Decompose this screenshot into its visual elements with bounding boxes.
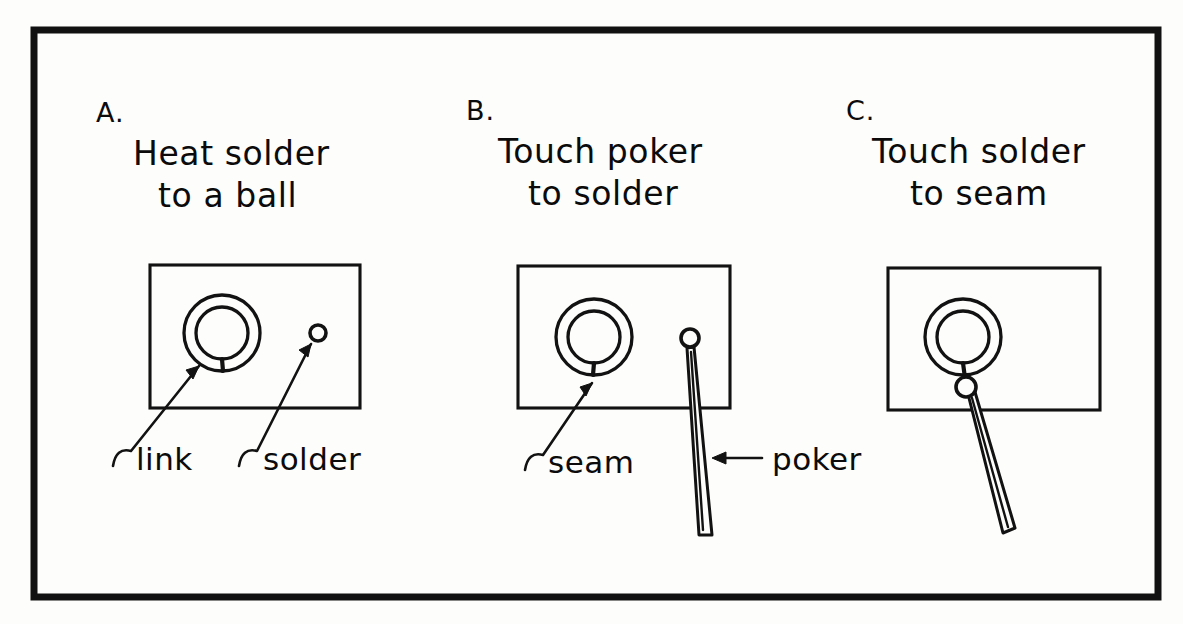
solder-arrowhead [299,344,311,357]
panel-a-callout-solder: solder [239,344,361,477]
panel-c-solder-ball [956,377,976,397]
poker-inner-line [972,398,1008,527]
panel-a-link-ring [184,295,260,371]
ring-inner-circle [196,307,248,359]
panel-c-caption-line1: Touch solder [871,132,1086,171]
poker-shaft [687,347,712,535]
solder-diagram: A. Heat solder to a ball link solder [0,0,1183,624]
ring-inner-circle [937,311,989,363]
poker-label: poker [772,441,862,477]
ring-seam [593,363,594,375]
panel-a: A. Heat solder to a ball link solder [96,97,361,477]
panel-a-caption-line2: to a ball [158,176,297,215]
seam-label: seam [548,444,634,480]
panel-a-caption-line1: Heat solder [133,134,330,173]
link-label: link [136,441,193,477]
panel-b-link-ring [556,299,632,375]
panel-b-caption-line2: to solder [528,174,678,213]
panel-a-letter: A. [96,97,125,128]
panel-b-poker [681,329,712,535]
panel-b-callout-seam: seam [525,383,634,480]
solder-label: solder [263,441,361,477]
panel-a-solder-ball [310,325,326,341]
panel-b-solder-ball [681,329,699,347]
panel-c-caption-line2: to seam [910,174,1048,213]
seam-arrowhead [580,383,592,396]
panel-c-box [888,268,1100,410]
poker-arrowhead [712,452,726,464]
ring-seam [222,359,223,371]
panel-b: B. Touch poker to solder seam [466,95,862,535]
panel-c: C. Touch solder to seam [846,95,1100,533]
panel-a-callout-link: link [113,366,199,477]
panel-b-caption-line1: Touch poker [497,132,703,171]
ring-inner-circle [568,311,620,363]
panel-c-poker [956,377,1015,533]
link-arrowhead [186,366,199,379]
panel-c-link-ring [925,299,1001,378]
panel-b-callout-poker: poker [712,441,862,477]
panel-c-letter: C. [846,95,875,126]
panel-b-letter: B. [466,95,495,126]
figure-page: A. Heat solder to a ball link solder [0,0,1183,624]
